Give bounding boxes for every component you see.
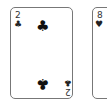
club-icon: ♣ <box>36 76 49 91</box>
club-icon: ♣ <box>36 19 49 34</box>
club-icon: ♣ <box>64 78 72 87</box>
card-rank: 2 <box>65 87 71 96</box>
club-icon: ♣ <box>14 20 22 29</box>
heart-icon: ♥ <box>95 20 103 29</box>
card-2-of-clubs[interactable]: 2 ♣ ♣ ♣ ♣ 2 <box>10 7 73 99</box>
card-8-of-hearts[interactable]: 8 ♥ ♥ ♥ ♥ <box>92 7 107 99</box>
